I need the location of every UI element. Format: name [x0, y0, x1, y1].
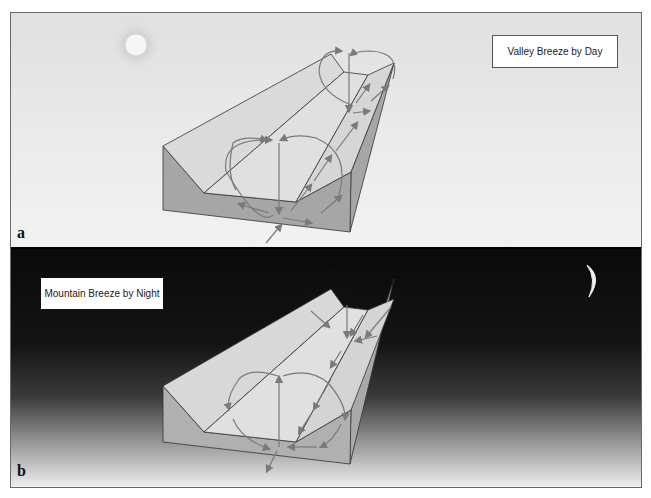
- panel-a-letter: a: [17, 224, 25, 242]
- panel-b-letter: b: [17, 462, 26, 480]
- panel-a-valley-breeze-day: Valley Breeze by Day a: [11, 13, 641, 249]
- panel-a-title: Valley Breeze by Day: [492, 35, 618, 68]
- panel-b-mountain-breeze-night: Mountain Breeze by Night b: [11, 249, 641, 487]
- crescent-moon-icon: [587, 265, 596, 297]
- panel-b-title: Mountain Breeze by Night: [41, 278, 163, 309]
- figure-frame: Valley Breeze by Day a: [10, 12, 642, 488]
- sun-icon: [110, 19, 162, 71]
